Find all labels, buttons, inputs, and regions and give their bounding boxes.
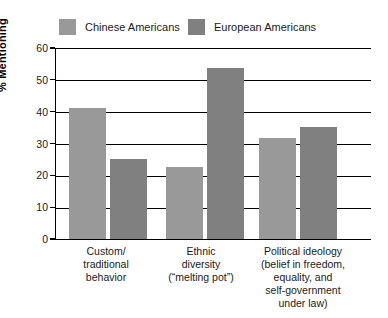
bar [300, 127, 337, 240]
plot-area [55, 48, 371, 240]
x-axis-label-line: (“melting pot”) [152, 271, 250, 284]
x-axis-label-line: (belief in freedom, [243, 258, 363, 271]
y-axis-tick-label: 20 [6, 170, 48, 181]
legend-item-chinese-americans: Chinese Americans [59, 18, 180, 36]
y-axis-tick-label: 60 [6, 43, 48, 54]
bar [110, 159, 147, 240]
x-axis-label-line: Political ideology [243, 245, 363, 258]
legend-label: European Americans [214, 22, 316, 33]
y-axis-tick-label: 40 [6, 107, 48, 118]
x-axis-label-group-1: Ethnicdiversity(“melting pot”) [152, 245, 250, 284]
x-axis-label-line: under law) [243, 297, 363, 310]
bar-chart: Chinese Americans European Americans % M… [0, 0, 388, 318]
bar [69, 108, 106, 240]
x-axis-label-group-0: Custom/traditionalbehavior [58, 245, 154, 284]
y-axis-tick-label: 30 [6, 139, 48, 150]
x-axis-label-group-2: Political ideology(belief in freedom,equ… [243, 245, 363, 310]
x-axis-label-line: traditional [58, 258, 154, 271]
y-axis-tick-label: 50 [6, 75, 48, 86]
y-axis-tick-label: 0 [6, 234, 48, 245]
bar [207, 68, 244, 240]
x-axis-label-line: Custom/ [58, 245, 154, 258]
bar [259, 138, 296, 240]
legend-label: Chinese Americans [85, 22, 180, 33]
bar [166, 167, 203, 240]
legend-swatch-icon [188, 19, 205, 35]
x-axis-label-line: diversity [152, 258, 250, 271]
y-axis-tick-label: 10 [6, 202, 48, 213]
legend-swatch-icon [59, 19, 76, 35]
x-axis-label-line: Ethnic [152, 245, 250, 258]
x-axis-line [55, 239, 371, 240]
legend-item-european-americans: European Americans [188, 18, 316, 36]
x-axis-label-line: self-government [243, 284, 363, 297]
x-axis-label-line: equality, and [243, 271, 363, 284]
x-axis-label-line: behavior [58, 271, 154, 284]
chart-legend: Chinese Americans European Americans [55, 18, 370, 38]
